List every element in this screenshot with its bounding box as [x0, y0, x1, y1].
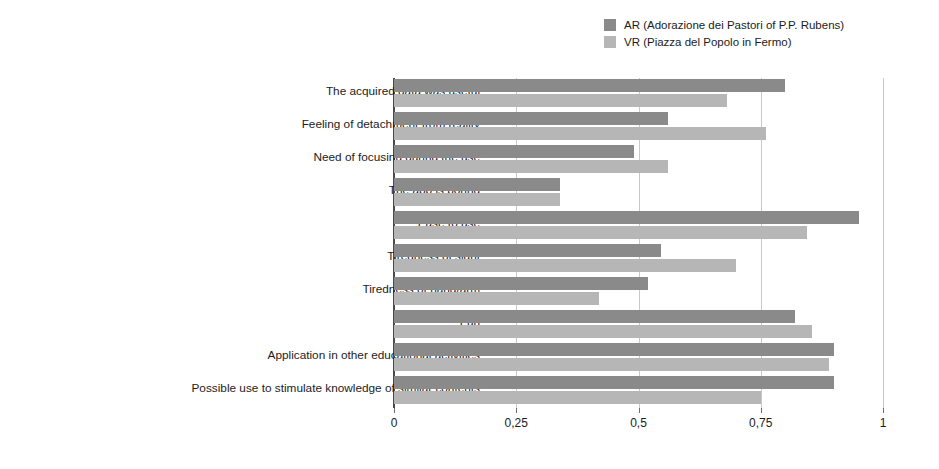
x-tick-label: 0,5: [630, 416, 647, 430]
x-tick-label: 0,75: [749, 416, 772, 430]
legend-swatch-ar: [604, 19, 616, 31]
bar-ar: [394, 211, 859, 224]
bar-chart: AR (Adorazione dei Pastori of P.P. Ruben…: [0, 0, 939, 469]
chart-row: Possible use to stimulate knowledge of s…: [394, 375, 883, 408]
bar-ar: [394, 310, 795, 323]
chart-row: Ease to use: [394, 210, 883, 243]
x-tick-mark: [761, 408, 762, 413]
chart-row: Application in other educational activit…: [394, 342, 883, 375]
chart-row: Need of focusing during the use: [394, 144, 883, 177]
bar-vr: [394, 358, 829, 371]
legend-item-ar: AR (Adorazione dei Pastori of P.P. Ruben…: [604, 18, 844, 32]
bar-ar: [394, 145, 634, 158]
legend-label-vr: VR (Piazza del Popolo in Fermo): [624, 36, 791, 48]
bar-ar: [394, 277, 648, 290]
bar-ar: [394, 376, 834, 389]
bar-vr: [394, 391, 761, 404]
bar-vr: [394, 160, 668, 173]
bar-ar: [394, 79, 785, 92]
x-tick-label: 0,25: [505, 416, 528, 430]
chart-legend: AR (Adorazione dei Pastori of P.P. Ruben…: [604, 18, 844, 49]
bar-vr: [394, 325, 812, 338]
chart-row: The acquired data was useful: [394, 78, 883, 111]
gridline: [883, 78, 884, 408]
legend-item-vr: VR (Piazza del Popolo in Fermo): [604, 35, 844, 49]
x-tick-mark: [516, 408, 517, 413]
x-tick-mark: [394, 408, 395, 413]
bar-vr: [394, 193, 560, 206]
bar-ar: [394, 112, 668, 125]
chart-row: The app is boring: [394, 177, 883, 210]
bar-vr: [394, 94, 727, 107]
chart-row: Tiredness of sight: [394, 243, 883, 276]
plot-area: 00,250,50,751 The acquired data was usef…: [394, 78, 883, 408]
x-tick-mark: [639, 408, 640, 413]
bar-vr: [394, 127, 766, 140]
bar-vr: [394, 226, 807, 239]
chart-row: Feeling of detachment from reality: [394, 111, 883, 144]
bar-ar: [394, 178, 560, 191]
bar-vr: [394, 292, 599, 305]
chart-row: Fun: [394, 309, 883, 342]
legend-swatch-vr: [604, 36, 616, 48]
x-tick-label: 1: [880, 416, 887, 430]
x-tick-label: 0: [391, 416, 398, 430]
bar-ar: [394, 244, 661, 257]
legend-label-ar: AR (Adorazione dei Pastori of P.P. Ruben…: [624, 19, 844, 31]
x-tick-mark: [883, 408, 884, 413]
chart-row: Tiredness of hand/arm: [394, 276, 883, 309]
bar-vr: [394, 259, 736, 272]
bar-ar: [394, 343, 834, 356]
